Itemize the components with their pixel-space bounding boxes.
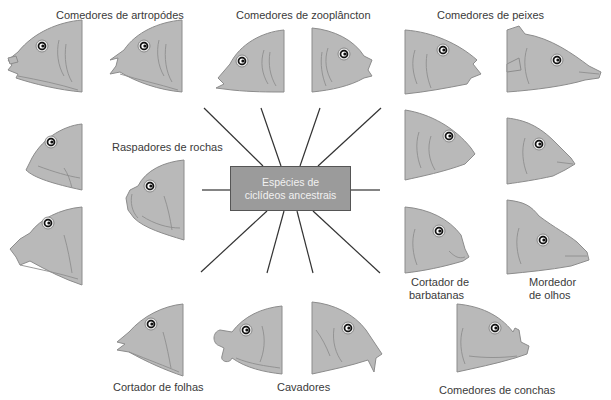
spoke-upper-mid-right	[300, 108, 320, 166]
center-label-line1: Espécies de	[262, 176, 319, 189]
label-arthropod-eaters: Comedores de artropódes	[56, 9, 184, 22]
spoke-upper-right	[318, 108, 381, 166]
fish-left-lower	[10, 207, 82, 285]
fish-right-middle-2	[507, 118, 575, 184]
label-fin-cutter-line2: barbatanas	[409, 289, 464, 302]
label-shell-eaters: Comedores de conchas	[439, 384, 555, 397]
spoke-upper-mid-left	[261, 108, 281, 166]
fish-digger-1	[214, 306, 282, 374]
label-eye-biter-line2: de olhos	[529, 289, 571, 302]
fish-shell-eater	[457, 304, 529, 372]
label-zooplankton-eaters: Comedores de zooplâncton	[236, 9, 371, 22]
spoke-lower-mid-right	[297, 211, 313, 273]
spoke-upper-left	[204, 108, 263, 166]
fish-left-middle	[26, 124, 82, 190]
fish-digger-2	[312, 302, 382, 374]
label-fin-cutter-line1: Cortador de	[411, 276, 469, 289]
fish-eye-biter	[507, 200, 589, 274]
fish-fin-cutter	[405, 207, 469, 273]
label-rock-scrapers: Raspadores de rochas	[112, 141, 223, 154]
spoke-lower-mid-left	[267, 211, 284, 273]
fish-arthropod-2	[110, 20, 182, 92]
fish-zooplankton-1	[216, 30, 284, 92]
label-eye-biter-line1: Mordedor	[529, 276, 576, 289]
fish-arthropod-1	[8, 20, 82, 92]
fish-right-middle-1	[405, 110, 475, 180]
label-diggers: Cavadores	[277, 381, 330, 394]
center-label-line2: ciclídeos ancestrais	[245, 189, 337, 202]
fish-rock-scraper	[126, 160, 184, 240]
fish-leaf-cutter	[117, 304, 183, 376]
fish-zooplankton-2	[312, 28, 372, 92]
ancestral-species-box: Espécies de ciclídeos ancestrais	[230, 166, 351, 211]
fish-piscivore-2	[507, 26, 601, 92]
label-fish-eaters: Comedores de peixes	[437, 9, 544, 22]
label-leaf-cutter: Cortador de folhas	[113, 381, 204, 394]
spoke-lower-left	[201, 211, 267, 272]
spoke-lower-right	[313, 211, 380, 273]
fish-piscivore-1	[405, 30, 481, 94]
